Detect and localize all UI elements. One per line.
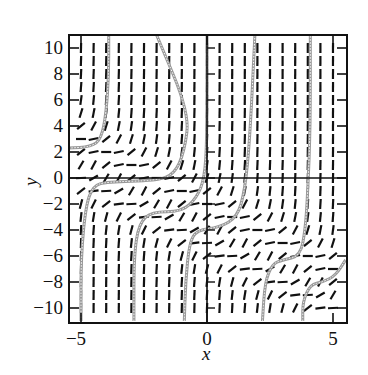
slope-segment bbox=[232, 290, 233, 300]
slope-segment bbox=[139, 164, 149, 166]
slope-segment bbox=[316, 255, 326, 257]
y-tick-label: 2 bbox=[54, 141, 64, 162]
slope-segment bbox=[219, 290, 220, 300]
slope-segment bbox=[279, 227, 287, 233]
slope-segment bbox=[179, 213, 184, 222]
slope-segment bbox=[131, 108, 132, 118]
slope-segment bbox=[93, 225, 94, 235]
slope-segment bbox=[193, 160, 195, 170]
slope-segment bbox=[102, 201, 110, 207]
slope-segment bbox=[142, 187, 147, 196]
slope-segment bbox=[215, 240, 224, 245]
slope-segment bbox=[140, 201, 149, 206]
slope-segment bbox=[281, 303, 284, 313]
slope-segment bbox=[320, 199, 321, 209]
slope-segment bbox=[114, 151, 124, 153]
slope-segment bbox=[219, 160, 220, 170]
slope-segment bbox=[118, 108, 119, 118]
slope-segment bbox=[114, 164, 124, 166]
slope-segment bbox=[127, 214, 135, 220]
y-tick-label: 8 bbox=[54, 63, 64, 84]
slope-segment bbox=[231, 277, 234, 287]
slope-segment bbox=[89, 151, 99, 153]
slope-segment bbox=[93, 82, 94, 92]
slope-segment bbox=[253, 279, 261, 285]
slope-segment bbox=[291, 279, 300, 284]
y-tick-label: −8 bbox=[43, 271, 63, 292]
slope-segment bbox=[116, 135, 121, 144]
y-tick-label: −2 bbox=[43, 193, 63, 214]
slope-segment bbox=[256, 290, 259, 300]
slope-segment bbox=[304, 305, 312, 311]
slope-segment bbox=[154, 200, 159, 209]
slope-segment bbox=[240, 253, 249, 258]
y-tick-label: −6 bbox=[43, 245, 63, 266]
slope-segment bbox=[293, 226, 298, 235]
slope-segment bbox=[169, 121, 170, 131]
slope-segment bbox=[80, 212, 81, 222]
slope-segment bbox=[293, 304, 297, 313]
slope-segment bbox=[318, 239, 323, 248]
slope-segment bbox=[293, 265, 298, 274]
slope-segment bbox=[167, 239, 171, 248]
slope-segment bbox=[128, 149, 136, 155]
slope-segment bbox=[231, 186, 234, 196]
slope-segment bbox=[156, 264, 157, 274]
slope-segment bbox=[91, 200, 95, 209]
slope-segment bbox=[153, 227, 161, 233]
slope-segment bbox=[119, 95, 120, 105]
slope-segment bbox=[167, 161, 172, 170]
slope-segment bbox=[219, 277, 221, 287]
slope-segment bbox=[194, 134, 195, 144]
slope-segment bbox=[80, 108, 83, 118]
y-tick-label: −4 bbox=[43, 219, 64, 240]
slope-segment bbox=[244, 303, 245, 313]
slope-segment bbox=[269, 303, 271, 313]
slope-segment bbox=[155, 238, 158, 248]
slope-segment bbox=[167, 200, 172, 209]
slope-segment bbox=[217, 265, 221, 274]
y-tick-label: 6 bbox=[54, 89, 64, 110]
slope-segment bbox=[165, 214, 174, 219]
slope-segment bbox=[131, 251, 132, 261]
slope-segment bbox=[164, 229, 174, 230]
slope-segment bbox=[194, 264, 196, 274]
slope-segment bbox=[240, 268, 250, 269]
slope-segment bbox=[194, 147, 195, 157]
slope-segment bbox=[279, 292, 287, 298]
slope-segment bbox=[131, 238, 132, 248]
slope-segment bbox=[114, 188, 123, 193]
slope-segment bbox=[80, 199, 83, 209]
slope-segment bbox=[194, 277, 195, 287]
slope-segment bbox=[281, 212, 284, 222]
slope-segment bbox=[89, 138, 99, 140]
slope-segment bbox=[106, 238, 107, 248]
slope-segment bbox=[102, 162, 110, 168]
slope-segment bbox=[168, 147, 170, 157]
slope-segment bbox=[155, 147, 158, 157]
y-tick-label: −10 bbox=[33, 297, 63, 318]
slope-segment bbox=[77, 188, 85, 194]
slope-segment bbox=[80, 95, 81, 105]
slope-segment bbox=[182, 277, 183, 287]
slope-segment bbox=[217, 187, 222, 196]
slope-segment bbox=[164, 190, 174, 192]
slope-segment bbox=[256, 199, 259, 209]
slope-segment bbox=[316, 292, 325, 297]
slope-segment bbox=[333, 212, 334, 222]
slope-segment bbox=[105, 212, 108, 222]
x-tick-label: −5 bbox=[66, 328, 86, 349]
slope-segment bbox=[118, 238, 119, 248]
slope-segment bbox=[192, 252, 196, 261]
slope-segment bbox=[143, 238, 145, 248]
slope-segment bbox=[215, 216, 225, 218]
x-tick-label: 5 bbox=[328, 328, 338, 349]
slope-segment bbox=[169, 134, 170, 144]
slope-segment bbox=[245, 160, 246, 170]
slope-segment bbox=[268, 252, 273, 261]
slope-segment bbox=[315, 307, 325, 308]
slope-segment bbox=[117, 213, 121, 222]
slope-segment bbox=[143, 134, 145, 144]
slope-segment bbox=[181, 251, 184, 261]
slope-segment bbox=[219, 147, 220, 157]
